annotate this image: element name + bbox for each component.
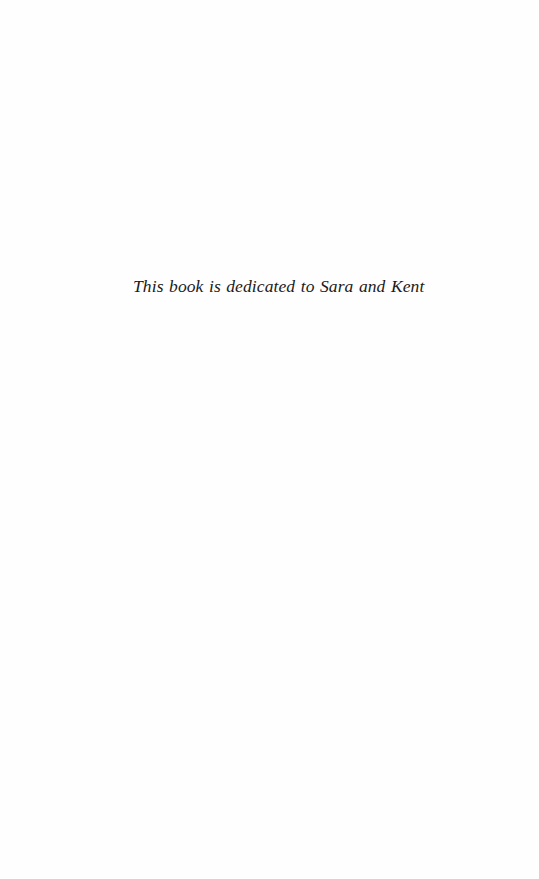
book-page: This book is dedicated to Sara and Kent xyxy=(0,0,539,879)
dedication-text: This book is dedicated to Sara and Kent xyxy=(133,276,424,296)
